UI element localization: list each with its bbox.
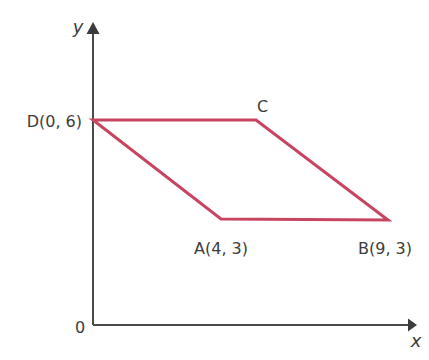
vertex-label-a: A(4, 3)	[194, 239, 248, 258]
parallelogram-group	[93, 120, 388, 220]
y-axis-arrow-icon	[87, 22, 100, 34]
parallelogram-shape	[93, 120, 388, 220]
vertex-label-d: D(0, 6)	[27, 112, 82, 131]
vertex-label-c: C	[257, 97, 268, 116]
diagram-canvas: y x 0 D(0, 6) C A(4, 3) B(9, 3)	[0, 0, 429, 360]
origin-label: 0	[75, 318, 85, 337]
coordinate-diagram-figure: y x 0 D(0, 6) C A(4, 3) B(9, 3)	[0, 0, 429, 360]
x-axis-label: x	[410, 330, 422, 351]
y-axis-label: y	[72, 16, 84, 37]
vertex-label-b: B(9, 3)	[358, 239, 412, 258]
axes-group: y x 0	[72, 16, 422, 351]
